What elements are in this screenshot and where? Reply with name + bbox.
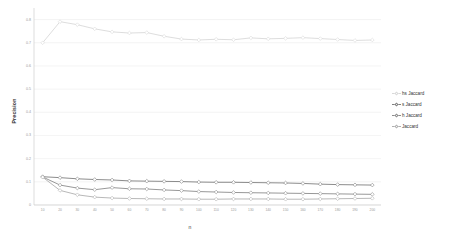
data-point-marker bbox=[249, 197, 253, 201]
data-point-marker bbox=[284, 197, 288, 201]
data-point-marker bbox=[93, 195, 97, 199]
data-point-marker bbox=[370, 38, 374, 42]
plot-area bbox=[0, 0, 451, 240]
data-point-marker bbox=[93, 27, 97, 31]
data-point-marker bbox=[180, 37, 184, 41]
series-line bbox=[43, 177, 373, 185]
data-point-marker bbox=[76, 23, 80, 27]
data-point-marker bbox=[336, 38, 340, 42]
data-point-marker bbox=[162, 180, 166, 184]
series-h-jaccard bbox=[41, 175, 374, 196]
legend-marker-icon bbox=[392, 91, 401, 97]
data-point-marker bbox=[197, 38, 201, 42]
data-point-marker bbox=[214, 197, 218, 201]
series-line bbox=[43, 22, 373, 43]
chart-legend: hs Jaccards Jaccardh JaccardJaccard bbox=[392, 88, 451, 132]
legend-label: Jaccard bbox=[402, 124, 418, 129]
legend-marker-icon bbox=[392, 113, 401, 119]
legend-marker-icon bbox=[392, 102, 401, 108]
data-point-marker bbox=[353, 192, 357, 196]
data-point-marker bbox=[336, 183, 340, 187]
data-point-marker bbox=[370, 196, 374, 200]
data-point-marker bbox=[284, 37, 288, 41]
data-point-marker bbox=[249, 36, 253, 40]
legend-marker-icon bbox=[392, 124, 401, 130]
data-point-marker bbox=[180, 180, 184, 184]
data-point-marker bbox=[180, 189, 184, 193]
data-point-marker bbox=[232, 197, 236, 201]
data-point-marker bbox=[197, 180, 201, 184]
data-point-marker bbox=[145, 31, 149, 35]
data-point-marker bbox=[370, 193, 374, 197]
data-point-marker bbox=[76, 186, 80, 190]
series-s-jaccard bbox=[41, 175, 374, 187]
series-hs-jaccard bbox=[41, 20, 374, 45]
data-point-marker bbox=[128, 179, 132, 183]
data-point-marker bbox=[301, 197, 305, 201]
data-point-marker bbox=[128, 187, 132, 191]
data-point-marker bbox=[93, 188, 97, 192]
data-point-marker bbox=[145, 187, 149, 191]
legend-item[interactable]: Jaccard bbox=[392, 121, 451, 132]
data-point-marker bbox=[214, 37, 218, 41]
data-point-marker bbox=[301, 182, 305, 186]
data-point-marker bbox=[197, 190, 201, 194]
data-point-marker bbox=[128, 31, 132, 35]
data-point-marker bbox=[336, 192, 340, 196]
data-point-marker bbox=[162, 188, 166, 192]
data-point-marker bbox=[249, 191, 253, 195]
data-point-marker bbox=[76, 193, 80, 197]
data-point-marker bbox=[232, 191, 236, 195]
data-point-marker bbox=[214, 180, 218, 184]
data-point-marker bbox=[318, 182, 322, 186]
data-point-marker bbox=[197, 197, 201, 201]
data-point-marker bbox=[353, 39, 357, 43]
data-point-marker bbox=[162, 197, 166, 201]
data-point-marker bbox=[58, 183, 62, 187]
legend-label: hs Jaccard bbox=[402, 91, 424, 96]
data-point-marker bbox=[301, 36, 305, 40]
data-point-marker bbox=[145, 179, 149, 183]
legend-item[interactable]: h Jaccard bbox=[392, 110, 451, 121]
legend-item[interactable]: hs Jaccard bbox=[392, 88, 451, 99]
data-point-marker bbox=[214, 190, 218, 194]
legend-label: h Jaccard bbox=[402, 113, 422, 118]
series-line bbox=[43, 177, 373, 199]
data-point-marker bbox=[145, 197, 149, 201]
data-point-marker bbox=[162, 34, 166, 38]
data-point-marker bbox=[318, 192, 322, 196]
data-point-marker bbox=[249, 181, 253, 185]
precision-line-chart: Precision n 00.10.20.30.40.50.60.70.8 10… bbox=[0, 0, 451, 240]
data-point-marker bbox=[336, 197, 340, 201]
data-point-marker bbox=[266, 197, 270, 201]
data-point-marker bbox=[284, 191, 288, 195]
data-point-marker bbox=[232, 180, 236, 184]
data-point-marker bbox=[76, 177, 80, 181]
data-point-marker bbox=[301, 192, 305, 196]
data-point-marker bbox=[318, 37, 322, 41]
data-point-marker bbox=[110, 30, 114, 34]
data-point-marker bbox=[110, 196, 114, 200]
data-point-marker bbox=[110, 186, 114, 190]
data-point-marker bbox=[58, 176, 62, 180]
legend-label: s Jaccard bbox=[402, 102, 422, 107]
data-point-marker bbox=[318, 197, 322, 201]
data-point-marker bbox=[353, 197, 357, 201]
data-point-marker bbox=[266, 191, 270, 195]
data-point-marker bbox=[353, 183, 357, 187]
legend-item[interactable]: s Jaccard bbox=[392, 99, 451, 110]
data-point-marker bbox=[232, 38, 236, 42]
data-point-marker bbox=[128, 197, 132, 201]
data-point-marker bbox=[180, 197, 184, 201]
data-point-marker bbox=[266, 181, 270, 185]
data-point-marker bbox=[370, 183, 374, 187]
data-point-marker bbox=[110, 178, 114, 182]
data-point-marker bbox=[93, 178, 97, 182]
data-point-marker bbox=[266, 37, 270, 41]
